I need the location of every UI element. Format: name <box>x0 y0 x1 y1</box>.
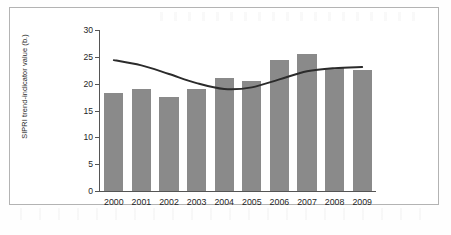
x-tick-label: 2005 <box>242 197 262 207</box>
x-tick-label: 2007 <box>297 197 317 207</box>
y-tick-label: 20 <box>83 79 93 89</box>
scan-artifact-bottom <box>20 208 430 220</box>
x-tick-label: 2003 <box>187 197 207 207</box>
figure-frame: SIPRI trend-indicator value (b.) 0510152… <box>9 7 439 205</box>
y-axis-label: SIPRI trend-indicator value (b.) <box>20 7 29 167</box>
bar-chart-figure: SIPRI trend-indicator value (b.) 0510152… <box>10 8 440 206</box>
x-tick-label: 2002 <box>159 197 179 207</box>
y-tick-mark <box>95 191 99 192</box>
y-tick-label: 0 <box>88 186 93 196</box>
x-tick-label: 2008 <box>325 197 345 207</box>
x-tick-label: 2009 <box>352 197 372 207</box>
trend-line-path <box>114 60 362 89</box>
y-tick-label: 30 <box>83 25 93 35</box>
y-tick-mark <box>95 137 99 138</box>
x-tick-label: 2000 <box>104 197 124 207</box>
x-tick-label: 2006 <box>270 197 290 207</box>
y-tick-mark <box>95 164 99 165</box>
y-tick-label: 15 <box>83 106 93 116</box>
y-tick-mark <box>95 57 99 58</box>
y-tick-label: 10 <box>83 132 93 142</box>
x-tick-label: 2004 <box>214 197 234 207</box>
y-tick-mark <box>95 84 99 85</box>
y-tick-label: 25 <box>83 52 93 62</box>
y-tick-mark <box>95 30 99 31</box>
y-tick-label: 5 <box>88 159 93 169</box>
x-tick-label: 2001 <box>132 197 152 207</box>
y-tick-mark <box>95 111 99 112</box>
plot-area: 051015202530 200020012002200320042005200… <box>99 30 376 199</box>
trend-line-series <box>100 30 376 191</box>
x-axis-line <box>99 191 376 192</box>
screenshot-page: SIPRI trend-indicator value (b.) 0510152… <box>0 0 451 235</box>
